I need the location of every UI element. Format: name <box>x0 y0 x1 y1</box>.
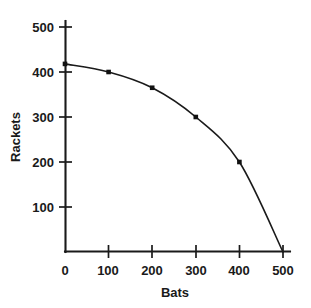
y-tick-label-400: 400 <box>32 65 54 80</box>
chart-background <box>0 0 311 308</box>
data-point-400 <box>237 160 242 165</box>
x-tick-label-500: 500 <box>272 263 294 278</box>
data-point-300 <box>194 115 199 120</box>
x-axis-title: Bats <box>161 285 189 300</box>
x-tick-label-100: 100 <box>97 263 119 278</box>
chart-canvas: 500 400 300 200 100 Rackets 0 100 200 30… <box>0 0 311 308</box>
x-tick-label-0: 0 <box>61 263 68 278</box>
y-axis-title: Rackets <box>8 112 23 162</box>
y-tick-label-300: 300 <box>32 110 54 125</box>
y-tick-label-500: 500 <box>32 20 54 35</box>
ppf-chart: 500 400 300 200 100 Rackets 0 100 200 30… <box>0 0 311 308</box>
data-point-100 <box>106 70 111 75</box>
y-tick-label-100: 100 <box>32 200 54 215</box>
x-tick-label-200: 200 <box>141 263 163 278</box>
x-tick-label-400: 400 <box>228 263 250 278</box>
y-tick-label-200: 200 <box>32 155 54 170</box>
data-point-200 <box>150 85 155 90</box>
data-point-0 <box>63 62 68 67</box>
x-tick-label-300: 300 <box>185 263 207 278</box>
